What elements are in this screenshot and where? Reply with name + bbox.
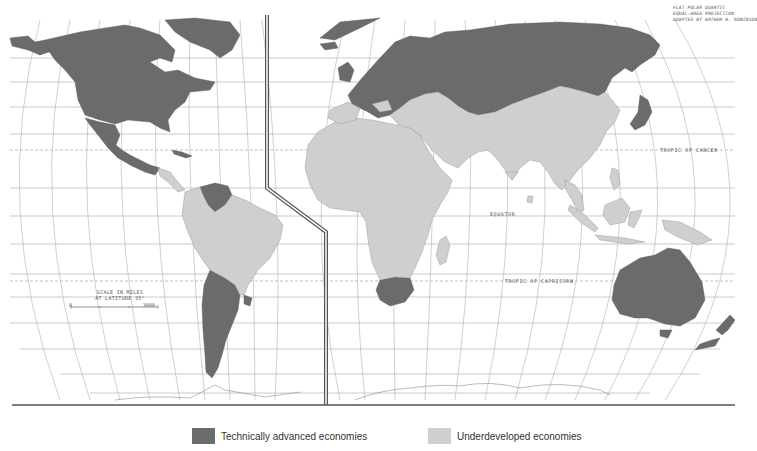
projection-divider [267,15,326,405]
underdeveloped-economies [158,86,712,295]
legend-item-advanced: Technically advanced economies [192,428,367,444]
antarctica-outline [115,383,610,400]
legend-item-underdeveloped: Underdeveloped economies [428,428,582,444]
world-economies-map [0,0,735,410]
projection-note: FLAT POLAR QUARTIC EQUAL-AREA PROJECTION… [673,5,757,23]
legend-label-advanced: Technically advanced economies [221,431,367,442]
legend-swatch-advanced [192,428,215,444]
legend-label-underdeveloped: Underdeveloped economies [457,431,582,442]
legend-swatch-underdeveloped [428,428,451,444]
tropic-of-capricorn-label: TROPIC OF CAPRICORN [505,278,574,284]
tropic-of-cancer-label: TROPIC OF CANCER [660,147,718,153]
equator-label: EQUATOR [490,211,515,217]
scale-title-line: AT LATITUDE 35° [70,295,170,301]
scale-bar [70,304,160,310]
map-scale-title: SCALE IN MILES AT LATITUDE 35° [70,289,170,301]
projection-note-line: ADAPTED BY ARTHUR H. ROBINSON [673,17,757,23]
